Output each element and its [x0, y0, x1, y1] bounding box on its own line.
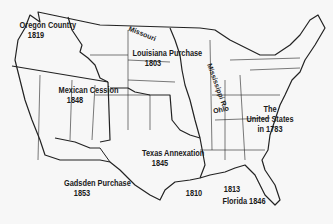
region-label-texas: Texas Annexation1845 — [142, 148, 178, 168]
region-label-florida: Florida 1846 — [219, 196, 268, 206]
region-label-oregon: Oregon Country1819 — [20, 20, 53, 40]
region-label-gadsden: Gadsden Purchase1853 — [64, 178, 100, 198]
region-label-1813: 1813 — [222, 184, 242, 194]
region-label-mexican: Mexican Cession1848 — [59, 85, 92, 105]
region-label-1810: 1810 — [184, 188, 204, 198]
region-label-us1783: TheUnited Statesin 1783 — [245, 104, 294, 134]
region-label-louisiana: Louisiana Purchase1803 — [133, 48, 174, 68]
us-expansion-map: Oregon Country1819 Louisiana Purchase180… — [0, 0, 333, 224]
